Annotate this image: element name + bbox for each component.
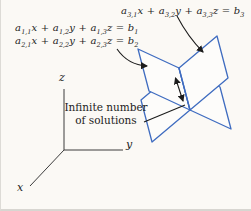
arrow-to-right-plane-icon [177,16,203,52]
equations-planes-1-2: a1,1x + a1,2y + a1,3z = b1 a2,1x + a2,2y… [15,21,138,47]
figure-canvas: a3,1x + a3,2y + a3,3z = b3 a1,1x + a1,2y… [0,0,251,211]
x-axis [30,150,64,186]
intersecting-planes [138,36,231,142]
solutions-callout-line1: Infinite number [59,101,153,114]
y-axis-label: y [126,138,132,151]
equation-plane-3: a3,1x + a3,2y + a3,3z = b3 [121,4,244,17]
x-axis-label: x [17,181,23,194]
solutions-callout-line2: of solutions [59,114,153,127]
equation-plane-2: a2,1x + a2,2y + a2,3z = b2 [15,34,138,47]
solutions-callout: Infinite number of solutions [59,101,153,126]
equation-plane-1: a1,1x + a1,2y + a1,3z = b1 [15,21,138,34]
z-axis-label: z [59,71,65,84]
